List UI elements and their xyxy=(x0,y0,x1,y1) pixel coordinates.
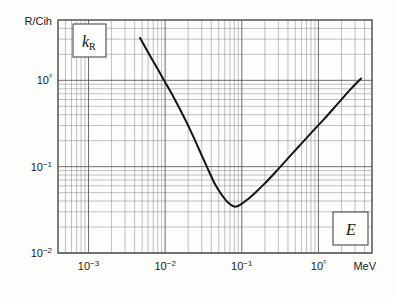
y-axis-tick-labels: 10⁰10−110−2 xyxy=(31,73,53,259)
y-axis-tick-label: 10−1 xyxy=(31,160,53,173)
x-axis-unit-label: MeV xyxy=(353,260,376,272)
x-axis-tick-labels: 10−310−210−110⁰ xyxy=(78,259,326,272)
x-axis-tick-label: 10−2 xyxy=(154,259,176,272)
x-axis-tick-label: 10⁰ xyxy=(311,259,326,272)
log-log-chart: 10⁰10−110−2 10−310−210−110⁰ R/Cih MeV kR… xyxy=(0,0,396,297)
x-axis-tick-label: 10−3 xyxy=(78,259,100,272)
y-axis-symbol-annotation: kR xyxy=(73,24,106,57)
x-axis-symbol-text: E xyxy=(345,221,356,238)
x-axis-tick-label: 10−1 xyxy=(231,259,253,272)
x-axis-symbol-annotation: E xyxy=(333,212,368,245)
y-axis-unit-label: R/Cih xyxy=(24,15,52,27)
y-axis-tick-label: 10⁰ xyxy=(37,73,52,86)
figure-container: 10⁰10−110−2 10−310−210−110⁰ R/Cih MeV kR… xyxy=(0,0,396,297)
y-axis-symbol-sub: R xyxy=(89,41,96,52)
y-axis-tick-label: 10−2 xyxy=(31,246,53,259)
